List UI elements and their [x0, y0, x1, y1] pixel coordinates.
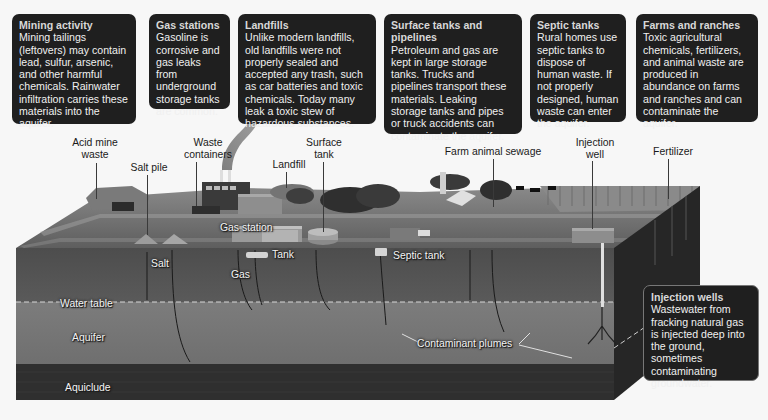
- soil-layer: [16, 248, 614, 302]
- callout-mining-activity: Mining activity Mining tailings (leftove…: [12, 14, 136, 124]
- label-surface-tank: Surface tank: [302, 137, 346, 161]
- callout-title: Septic tanks: [537, 19, 619, 31]
- callout-landfills: Landfills Unlike modern landfills, old l…: [238, 14, 376, 124]
- label-tank: Tank: [272, 249, 294, 261]
- aquifer-layer: [16, 302, 614, 364]
- label-aquifer: Aquifer: [72, 332, 105, 344]
- callout-body: Mining tailings (leftovers) may contain …: [19, 31, 129, 129]
- label-injection-well: Injection well: [570, 137, 620, 161]
- callout-title: Farms and ranches: [643, 19, 751, 31]
- leader-line: [96, 163, 97, 199]
- label-acid-mine-waste: Acid mine waste: [60, 137, 130, 161]
- callout-gas-stations: Gas stations Gasoline is corrosive and g…: [149, 14, 230, 109]
- leader-line: [668, 159, 669, 199]
- leader-line: [196, 162, 197, 206]
- callout-title: Mining activity: [19, 19, 129, 31]
- injection-well-pad: [572, 228, 614, 243]
- callout-farms-ranches: Farms and ranches Toxic agricultural che…: [636, 14, 758, 122]
- callout-title: Surface tanks and pipelines: [391, 19, 515, 44]
- label-contaminant-plumes: Contaminant plumes: [417, 338, 512, 350]
- callout-body: Gasoline is corrosive and gas leaks from…: [156, 31, 223, 117]
- label-salt: Salt: [151, 258, 169, 270]
- label-fertilizer: Fertilizer: [645, 146, 701, 158]
- underground-septic-tank: [375, 248, 387, 256]
- label-septic-tank: Septic tank: [393, 250, 444, 262]
- callout-title: Injection wells: [651, 291, 751, 303]
- label-waste-containers: Waste containers: [180, 137, 236, 161]
- callout-title: Landfills: [245, 19, 369, 31]
- callout-surface-tanks: Surface tanks and pipelines Petroleum an…: [384, 14, 522, 134]
- callout-body: Toxic agricultural chemicals, fertilizer…: [643, 31, 751, 129]
- label-gas: Gas: [231, 269, 250, 281]
- leader-line: [323, 162, 324, 232]
- callout-injection-wells: Injection wells Wastewater from fracking…: [643, 285, 759, 381]
- underground-gas-tank: [246, 252, 268, 258]
- leader-line: [286, 172, 287, 188]
- label-water-table: Water table: [60, 298, 113, 310]
- callout-septic-tanks: Septic tanks Rural homes use septic tank…: [530, 14, 626, 122]
- callout-title: Gas stations: [156, 19, 223, 31]
- leader-line: [493, 159, 494, 207]
- leader-line: [592, 161, 593, 229]
- label-aquiclude: Aquiclude: [65, 382, 111, 394]
- leader-line: [147, 175, 148, 235]
- label-gas-station: Gas station: [220, 222, 273, 234]
- label-salt-pile: Salt pile: [126, 162, 172, 174]
- callout-body: Unlike modern landfills, old landfills w…: [245, 31, 369, 129]
- label-farm-animal-sewage: Farm animal sewage: [441, 146, 545, 158]
- callout-body: Wastewater from fracking natural gas is …: [651, 303, 751, 389]
- callout-body: Rural homes use septic tanks to dispose …: [537, 31, 619, 129]
- callout-body: Petroleum and gas are kept in large stor…: [391, 44, 515, 142]
